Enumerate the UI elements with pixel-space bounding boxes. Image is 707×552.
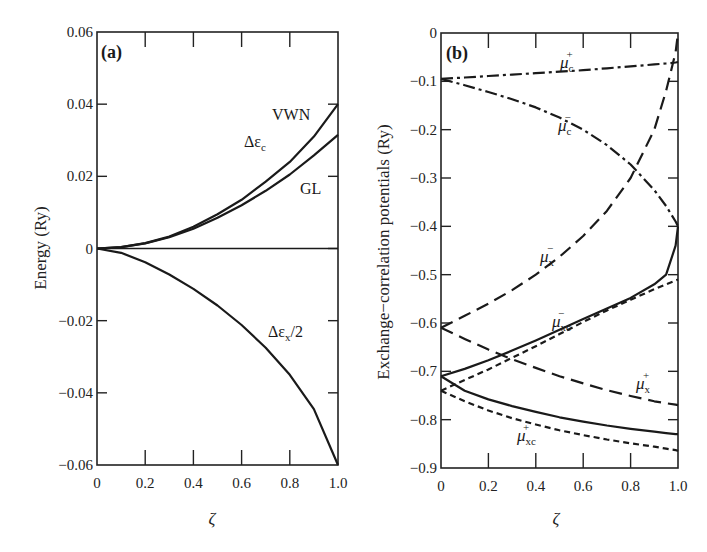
x-tick-label: 0.8 [280, 475, 299, 491]
curve-longdash [441, 328, 678, 405]
figure: 00.20.40.60.81.0−0.06−0.04−0.0200.020.04… [0, 0, 707, 552]
mu-c-minus-label: μc− [557, 111, 572, 137]
x-tick-label: 1.0 [329, 475, 348, 491]
y-tick-label: −0.8 [410, 412, 437, 428]
y-tick-label: −0.1 [410, 73, 437, 89]
panel-b-x-axis-title: ζ [553, 509, 561, 528]
x-tick-label: 0.6 [574, 478, 593, 494]
mu-x-minus-label: μx− [539, 242, 555, 268]
y-tick-label: −0.5 [410, 267, 437, 283]
curve-longdash [441, 33, 678, 328]
panel-a-curves [97, 104, 338, 465]
y-tick-label: −0.4 [410, 218, 438, 234]
vwn-label: VWN [272, 106, 311, 123]
panel-b: 00.20.40.60.81.00−0.1−0.2−0.3−0.4−0.5−0.… [374, 25, 687, 528]
panel-b-frame [441, 33, 678, 468]
panel-b-label: (b) [446, 43, 468, 64]
y-tick-label: −0.7 [410, 363, 438, 379]
y-tick-label: 0 [86, 241, 94, 257]
curve-shortdash [441, 391, 678, 451]
delta-eps-c-label: Δεc [244, 133, 266, 153]
y-tick-label: −0.3 [410, 170, 437, 186]
panel-a: 00.20.40.60.81.0−0.06−0.04−0.0200.020.04… [31, 24, 347, 528]
curve-solid [97, 249, 338, 466]
y-tick-label: −0.9 [410, 460, 437, 476]
y-tick-label: 0.02 [67, 168, 93, 184]
curve-dashdot [441, 79, 678, 226]
y-tick-label: 0.06 [67, 24, 94, 40]
y-tick-label: −0.06 [58, 457, 93, 473]
panel-a-x-axis-title: ζ [209, 509, 217, 528]
panel-a-y-axis-title: Energy (Ry) [31, 206, 50, 290]
panel-a-label: (a) [101, 42, 122, 63]
x-tick-label: 0.8 [621, 478, 640, 494]
y-tick-label: 0.04 [67, 96, 94, 112]
mu-xc-minus-label: μxc− [551, 307, 571, 333]
mu-xc-plus-label: μxc+ [516, 421, 536, 447]
panel-b-y-axis-title: Exchange−correlation potentials (Ry) [374, 124, 393, 379]
y-tick-label: −0.6 [410, 315, 438, 331]
y-tick-label: −0.04 [58, 385, 93, 401]
y-tick-label: −0.2 [410, 122, 437, 138]
mu-c-plus-label: μc+ [559, 48, 574, 74]
gl-label: GL [300, 180, 321, 197]
x-tick-label: 0 [93, 475, 101, 491]
x-tick-label: 1.0 [669, 478, 688, 494]
y-tick-label: 0 [430, 25, 438, 41]
mu-x-plus-label: μx+ [635, 369, 651, 395]
delta-eps-x-label: Δεx/2 [268, 323, 303, 343]
panel-a-ticks: 00.20.40.60.81.0−0.06−0.04−0.0200.020.04… [58, 24, 347, 491]
x-tick-label: 0.4 [526, 478, 545, 494]
x-tick-label: 0.2 [479, 478, 498, 494]
curve-solid [441, 226, 678, 376]
y-tick-label: −0.02 [58, 313, 93, 329]
curve-solid [97, 104, 338, 248]
x-tick-label: 0.6 [232, 475, 251, 491]
x-tick-label: 0 [437, 478, 445, 494]
x-tick-label: 0.2 [136, 475, 155, 491]
x-tick-label: 0.4 [184, 475, 203, 491]
